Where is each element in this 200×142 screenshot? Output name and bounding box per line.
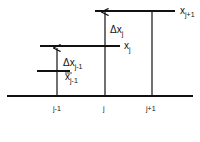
tick-label-j-plus-1: j+1 (145, 105, 156, 113)
label-x-j-plus-1: xj+1 (180, 5, 195, 19)
tick-label-j-minus-1: j-1 (52, 105, 61, 113)
label-delta-x-j: Δxj (110, 24, 124, 38)
label-delta-x-j-minus-1: Δxj-1 (63, 57, 83, 71)
label-x-j: xj (124, 40, 131, 54)
staircase-diagram: xj+1 xj xj-1 Δxj Δxj-1 j-1 j j+1 (0, 0, 200, 142)
tick-label-j: j (102, 105, 105, 113)
